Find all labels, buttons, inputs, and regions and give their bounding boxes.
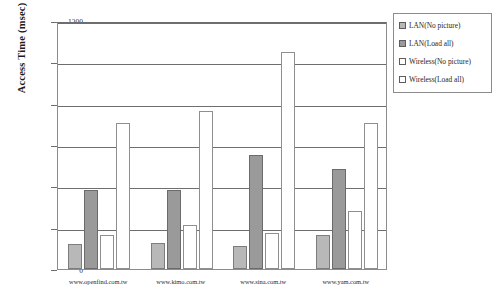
x-axis-tick-label: www.openfind.com.tw (69, 278, 127, 285)
x-axis-tick-label: www.kimo.com.tw (156, 278, 205, 285)
bar (332, 169, 346, 269)
bar-chart-figure: Access Time (msec) 020040060080010001200… (0, 0, 496, 304)
legend-item-label: LAN(No picture) (409, 21, 461, 30)
chart-legend: LAN(No picture)LAN(Load all)Wireless(No … (393, 13, 492, 93)
bar (265, 233, 279, 269)
bar-series-container (58, 23, 386, 269)
bar (167, 190, 181, 269)
legend-item[interactable]: LAN(No picture) (399, 21, 486, 30)
legend-swatch-icon (399, 76, 406, 83)
legend-item[interactable]: Wireless(No picture) (399, 57, 486, 66)
bar-group (58, 23, 141, 269)
legend-swatch-icon (399, 22, 406, 29)
bar-group (223, 23, 306, 269)
bar (316, 235, 330, 269)
bar (183, 225, 197, 269)
bar (281, 52, 295, 269)
bar (233, 246, 247, 269)
x-axis-tick-label: www.sina.com.tw (240, 278, 286, 285)
bar (100, 235, 114, 269)
bar (199, 111, 213, 269)
bar (151, 243, 165, 269)
bar (348, 211, 362, 269)
legend-item[interactable]: LAN(Load all) (399, 39, 486, 48)
bar-group (141, 23, 224, 269)
bar (68, 244, 82, 269)
y-axis-tick-mark (51, 270, 57, 271)
legend-item-label: Wireless(Load all) (409, 75, 464, 84)
plot-area (57, 22, 387, 270)
x-axis-tick-label: www.yam.com.tw (322, 278, 369, 285)
legend-item-label: Wireless(No picture) (409, 57, 471, 66)
y-axis-title: Access Time (msec) (16, 0, 27, 108)
legend-item-label: LAN(Load all) (409, 39, 454, 48)
bar (364, 123, 378, 269)
legend-swatch-icon (399, 58, 406, 65)
bar-group (306, 23, 389, 269)
bar (116, 123, 130, 269)
bar (84, 190, 98, 269)
bar (249, 155, 263, 269)
legend-item[interactable]: Wireless(Load all) (399, 75, 486, 84)
legend-swatch-icon (399, 40, 406, 47)
